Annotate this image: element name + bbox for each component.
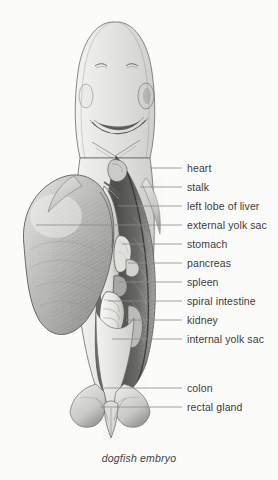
pelvic-fin-left — [70, 384, 106, 427]
label-heart: heart — [187, 163, 211, 174]
label-internal-yolk-sac: internal yolk sac — [187, 334, 264, 345]
label-external-yolk-sac: external yolk sac — [187, 220, 267, 231]
figure-plate: heartstalkleft lobe of liverexternal yol… — [0, 0, 278, 480]
label-spiral-intestine: spiral intestine — [187, 296, 256, 307]
label-spleen: spleen — [187, 277, 219, 288]
label-kidney: kidney — [187, 315, 218, 326]
label-rectal-gland: rectal gland — [187, 402, 242, 413]
label-left-lobe-liver: left lobe of liver — [187, 201, 259, 212]
label-pancreas: pancreas — [187, 258, 231, 269]
label-colon: colon — [187, 383, 213, 394]
label-stomach: stomach — [187, 239, 227, 250]
specimen-outline — [20, 22, 164, 440]
head — [75, 22, 155, 160]
label-stalk: stalk — [187, 182, 209, 193]
figure-caption: dogfish embryo — [0, 452, 278, 464]
